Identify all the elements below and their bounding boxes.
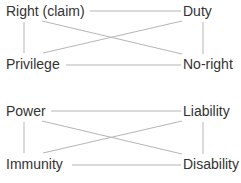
jural-square-first-order: Right (claim) Duty Privilege No-right: [0, 0, 241, 80]
label-power: Power: [6, 103, 46, 119]
label-privilege: Privilege: [6, 56, 60, 72]
label-immunity: Immunity: [6, 156, 63, 172]
label-liability: Liability: [183, 103, 230, 119]
label-right-claim: Right (claim): [6, 3, 85, 19]
label-no-right: No-right: [183, 56, 233, 72]
label-disability: Disability: [183, 156, 239, 172]
label-duty: Duty: [183, 3, 212, 19]
jural-square-second-order: Power Liability Immunity Disability: [0, 100, 241, 180]
